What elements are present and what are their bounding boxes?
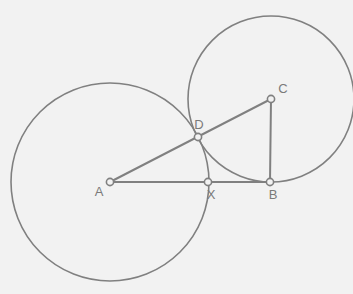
segment-CB xyxy=(270,99,271,182)
vertex-marker-x xyxy=(204,178,211,185)
geometry-diagram: ADCXB xyxy=(0,0,353,294)
vertex-label-b: B xyxy=(269,187,278,202)
vertex-label-x: X xyxy=(207,187,216,202)
vertex-label-d: D xyxy=(194,117,203,132)
vertex-marker-c xyxy=(267,95,274,102)
vertex-label-a: A xyxy=(95,184,104,199)
vertex-marker-d xyxy=(194,133,201,140)
vertex-marker-b xyxy=(266,178,273,185)
vertex-label-c: C xyxy=(278,81,287,96)
vertex-marker-a xyxy=(106,178,113,185)
geometry-figure-canvas: ADCXB xyxy=(0,0,353,294)
